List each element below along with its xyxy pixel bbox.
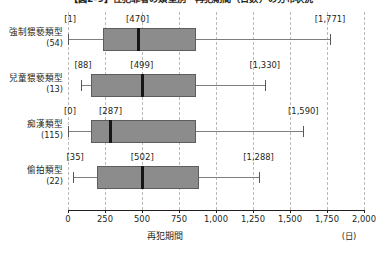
x-tick-label: 2,000 — [352, 214, 376, 224]
upper-whisker-cap — [330, 34, 331, 45]
lower-whisker-cap — [73, 172, 74, 183]
upper-whisker — [199, 177, 258, 178]
boxplot-row: [1][470][1,771] — [0, 17, 382, 63]
x-tick-mark — [179, 210, 180, 213]
lower-whisker — [73, 177, 97, 178]
median-value-label: [499] — [130, 60, 153, 70]
max-value-label: [1,330] — [250, 60, 281, 70]
x-tick-label: 1,750 — [315, 214, 339, 224]
x-tick-mark — [364, 210, 365, 213]
min-value-label: [0] — [64, 106, 76, 116]
box — [103, 28, 196, 51]
median-line — [109, 120, 112, 143]
x-tick-label: 0 — [65, 214, 70, 224]
x-tick-mark — [68, 210, 69, 213]
min-value-label: [35] — [67, 152, 84, 162]
min-value-label: [1] — [64, 14, 76, 24]
lower-whisker — [68, 131, 91, 132]
lower-whisker — [68, 39, 103, 40]
x-tick-mark — [142, 210, 143, 213]
max-value-label: [1,590] — [288, 106, 319, 116]
x-tick-label: 1,250 — [241, 214, 265, 224]
median-line — [141, 166, 144, 189]
upper-whisker — [196, 39, 330, 40]
median-line — [141, 74, 144, 97]
lower-whisker — [81, 85, 91, 86]
boxplot-row: [0][287][1,590] — [0, 109, 382, 155]
x-tick-label: 1,500 — [278, 214, 302, 224]
upper-whisker-cap — [259, 172, 260, 183]
max-value-label: [1,771] — [315, 14, 346, 24]
min-value-label: [88] — [74, 60, 91, 70]
upper-whisker — [196, 85, 265, 86]
x-tick-label: 250 — [97, 214, 113, 224]
upper-whisker-cap — [265, 80, 266, 91]
page-title: 【図2-9】性犯罪者の類型別・再犯期間（日数）の分布状況 — [0, 0, 382, 5]
upper-whisker-cap — [303, 126, 304, 137]
lower-whisker-cap — [68, 34, 69, 45]
boxplot-figure: 【図2-9】性犯罪者の類型別・再犯期間（日数）の分布状況 02505007501… — [0, 0, 382, 261]
box — [97, 166, 199, 189]
median-value-label: [287] — [99, 106, 122, 116]
boxplot-row: [35][502][1,288] — [0, 155, 382, 201]
x-axis-unit: (日) — [342, 229, 357, 241]
x-tick-label: 1,000 — [204, 214, 228, 224]
median-value-label: [470] — [126, 14, 149, 24]
lower-whisker-cap — [68, 126, 69, 137]
x-tick-label: 750 — [171, 214, 187, 224]
median-value-label: [502] — [131, 152, 154, 162]
x-tick-label: 500 — [134, 214, 150, 224]
x-tick-mark — [290, 210, 291, 213]
max-value-label: [1,288] — [243, 152, 274, 162]
lower-whisker-cap — [81, 80, 82, 91]
x-tick-mark — [253, 210, 254, 213]
median-line — [137, 28, 140, 51]
upper-whisker — [196, 131, 303, 132]
x-axis-title: 再犯期間 — [0, 229, 330, 242]
boxplot-row: [88][499][1,330] — [0, 63, 382, 109]
x-tick-mark — [216, 210, 217, 213]
box — [91, 120, 196, 143]
x-tick-mark — [105, 210, 106, 213]
x-tick-mark — [327, 210, 328, 213]
